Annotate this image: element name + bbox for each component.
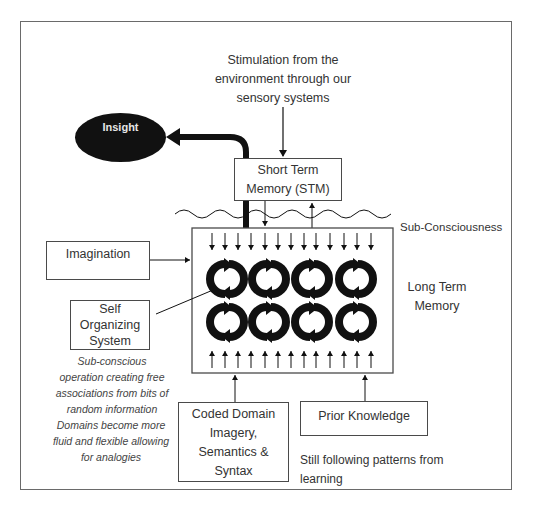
cycle-icon [252,258,286,300]
self-organizing-system-box: Self Organizing System [70,300,150,350]
cycle-icon [210,301,244,343]
coded-domain-label: Coded Domain Imagery, Semantics & Syntax [188,405,280,481]
insight-node: Insight [75,113,166,162]
cycle-icon [339,301,373,343]
subconscious-note: Sub-conscious operation creating free as… [55,353,169,417]
cycle-icon [295,258,329,300]
cycle-icon [295,301,329,343]
short-term-memory-box: Short Term Memory (STM) [234,158,342,201]
subconscious-wave [175,210,391,218]
prior-knowledge-label: Prior Knowledge [318,407,410,426]
stm-label: Short Term Memory (STM) [243,161,333,199]
cycle-icon-grid [210,258,373,343]
cycle-icon [252,301,286,343]
imagination-box: Imagination [46,241,150,280]
self-organizing-connector [156,290,213,314]
stimulation-label: Stimulation from the environment through… [210,51,356,108]
long-term-memory-label: Long Term Memory [402,278,472,316]
cycle-icon [339,258,373,300]
insight-label: Insight [102,121,138,162]
cycle-icon [210,258,244,300]
learning-note: Still following patterns from learning [300,451,485,489]
imagination-label: Imagination [66,245,131,264]
self-organizing-label: Self Organizing System [78,301,142,349]
subconsciousness-label: Sub-Consciousness [400,218,502,237]
long-term-memory-box [192,228,393,373]
coded-domain-box: Coded Domain Imagery, Semantics & Syntax [178,402,289,482]
domains-note: Domains become more fluid and flexible a… [52,417,170,465]
prior-knowledge-box: Prior Knowledge [300,401,428,436]
